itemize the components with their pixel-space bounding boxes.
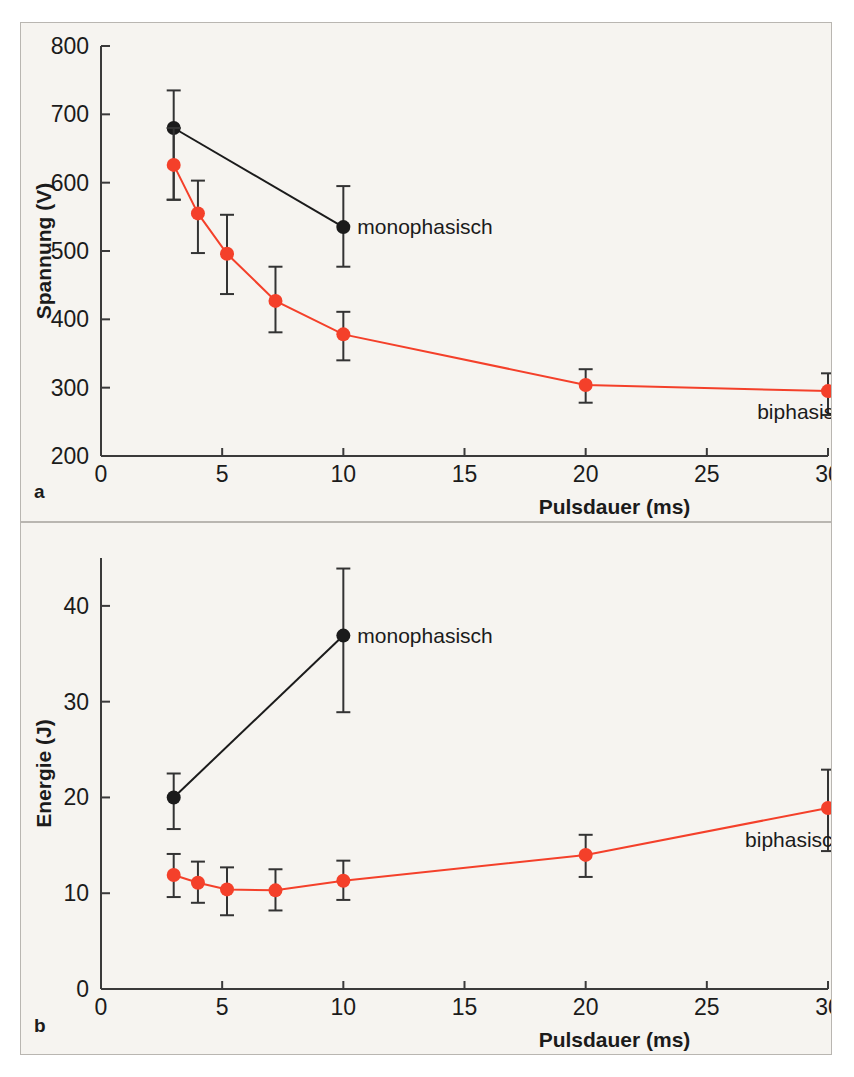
y-tick-label: 500 (51, 238, 89, 264)
y-tick-label: 700 (51, 101, 89, 127)
data-point (268, 883, 282, 897)
y-tick-label: 40 (63, 593, 89, 619)
series-line (174, 636, 344, 798)
chart-b-canvas: 051015202530010203040Pulsdauer (ms)Energ… (21, 523, 831, 1054)
series-biphasisch (167, 128, 831, 415)
data-point (167, 790, 181, 804)
y-tick-label: 0 (76, 976, 89, 1002)
data-point (268, 294, 282, 308)
x-tick-label: 20 (573, 461, 599, 487)
panel-letter-a: a (34, 481, 45, 503)
x-axis-title: Pulsdauer (ms) (539, 495, 691, 518)
data-point (579, 848, 593, 862)
y-tick-label: 600 (51, 170, 89, 196)
x-tick-label: 5 (216, 994, 229, 1020)
data-point (336, 629, 350, 643)
x-tick-label: 0 (95, 994, 108, 1020)
x-tick-label: 0 (95, 461, 108, 487)
x-tick-label: 10 (331, 461, 357, 487)
data-point (579, 378, 593, 392)
series-label-biphasisch: biphasisch (745, 828, 831, 851)
data-point (821, 801, 831, 815)
series-label-monophasisch: monophasisch (357, 624, 492, 647)
series-label-monophasisch: monophasisch (357, 215, 492, 238)
y-tick-label: 20 (63, 784, 89, 810)
series-biphasisch (167, 770, 831, 916)
x-tick-label: 15 (452, 461, 478, 487)
series-line (174, 165, 828, 391)
panel-letter-b: b (34, 1015, 46, 1037)
x-tick-label: 25 (694, 461, 720, 487)
x-tick-label: 20 (573, 994, 599, 1020)
series-monophasisch (167, 569, 351, 830)
series-line (174, 808, 828, 890)
y-axis-title: Energie (J) (32, 719, 55, 828)
y-tick-label: 400 (51, 306, 89, 332)
series-monophasisch (167, 90, 351, 266)
y-tick-label: 300 (51, 375, 89, 401)
y-tick-label: 10 (63, 880, 89, 906)
x-tick-label: 15 (452, 994, 478, 1020)
chart-panel-b: 051015202530010203040Pulsdauer (ms)Energ… (20, 522, 832, 1055)
series-label-biphasisch: biphasisch (757, 400, 831, 423)
x-tick-label: 25 (694, 994, 720, 1020)
chart-a-canvas: 051015202530200300400500600700800Pulsdau… (21, 23, 831, 521)
data-point (220, 247, 234, 261)
data-point (336, 220, 350, 234)
x-tick-label: 30 (815, 461, 831, 487)
x-axis-title: Pulsdauer (ms) (539, 1028, 691, 1051)
y-tick-label: 200 (51, 443, 89, 469)
y-tick-label: 800 (51, 33, 89, 59)
chart-panel-a: 051015202530200300400500600700800Pulsdau… (20, 22, 832, 522)
y-tick-label: 30 (63, 689, 89, 715)
data-point (336, 874, 350, 888)
data-point (336, 327, 350, 341)
data-point (167, 158, 181, 172)
x-tick-label: 10 (331, 994, 357, 1020)
data-point (220, 882, 234, 896)
data-point (821, 384, 831, 398)
x-tick-label: 30 (815, 994, 831, 1020)
figure-root: 051015202530200300400500600700800Pulsdau… (0, 0, 854, 1077)
data-point (167, 868, 181, 882)
x-tick-label: 5 (216, 461, 229, 487)
data-point (191, 876, 205, 890)
data-point (191, 206, 205, 220)
y-axis-title: Spannung (V) (32, 183, 55, 319)
